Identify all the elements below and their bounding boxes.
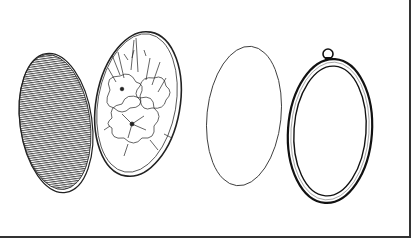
hanging-loop-icon (323, 49, 333, 60)
oval-frame (283, 49, 377, 206)
exploded-frame-illustration (0, 0, 412, 240)
backing-board (11, 49, 102, 198)
embroidered-panel (84, 25, 192, 183)
clear-cover (200, 43, 288, 190)
